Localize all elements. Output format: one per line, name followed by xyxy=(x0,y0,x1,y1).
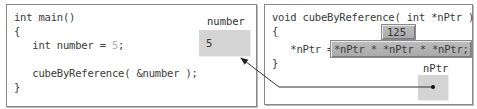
pointer-arrow xyxy=(0,0,477,109)
pointer-dot-icon xyxy=(431,85,435,89)
arrow-line xyxy=(241,58,433,87)
